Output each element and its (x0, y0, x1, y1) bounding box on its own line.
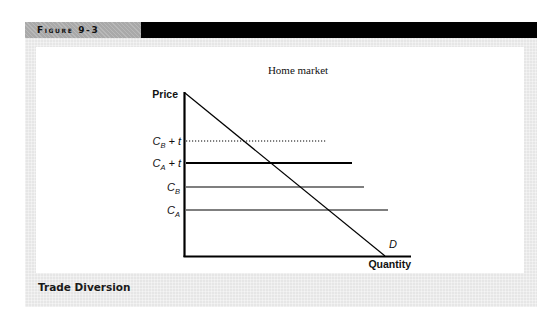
cb-label: CB (167, 181, 180, 196)
chart-title: Home market (268, 64, 328, 76)
demand-curve (185, 93, 385, 256)
cb-plus-t-label: CB+ t (152, 135, 181, 150)
ca-plus-t-label: CA+ t (152, 157, 181, 172)
chart-svg: Home market Price Quantity D CB+ t CA+ t… (0, 0, 557, 326)
demand-label: D (389, 238, 397, 250)
ca-label: CA (167, 204, 180, 219)
x-axis-label: Quantity (368, 258, 411, 270)
y-axis-label: Price (152, 88, 178, 100)
